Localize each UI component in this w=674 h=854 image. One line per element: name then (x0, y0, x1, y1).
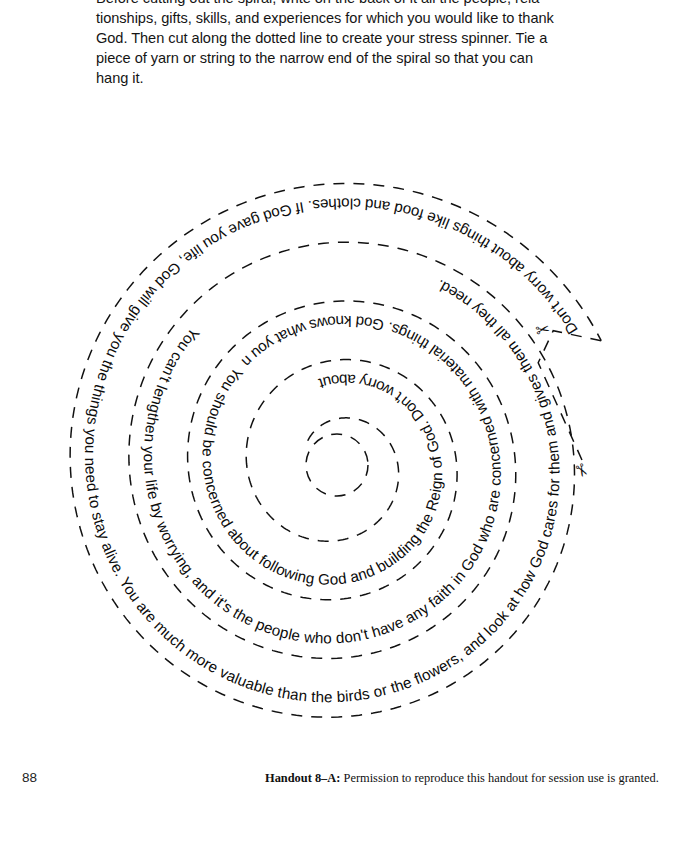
scissors-icon-top-glyph: ✂ (534, 319, 552, 340)
scissors-icon-lower-glyph: ✂ (570, 460, 593, 481)
spiral-svg: ✂ ✂ Don't worry about things like food a… (0, 90, 674, 770)
page-number: 88 (22, 770, 37, 785)
footer-credit: Handout 8–A: Permission to reproduce thi… (265, 771, 659, 786)
page-footer: 88 Handout 8–A: Permission to reproduce … (0, 770, 674, 810)
intro-line-5: hang it. (96, 69, 558, 89)
spiral-text-turn-3: You should be concerned about following … (0, 90, 445, 588)
intro-line-1: Before cutting out the spiral, write on … (96, 0, 558, 9)
spiral-text-turn-2-content: You can't lengthen your life by worrying… (0, 90, 504, 646)
footer-credit-text: Permission to reproduce this handout for… (344, 771, 659, 785)
intro-line-2: tionships, gifts, skills, and experience… (96, 9, 558, 29)
intro-paragraph: Before cutting out the spiral, write on … (96, 0, 558, 89)
footer-credit-label: Handout 8–A: (265, 771, 340, 785)
stress-spinner-figure: ✂ ✂ Don't worry about things like food a… (0, 90, 674, 770)
spiral-text-turn-2: You can't lengthen your life by worrying… (0, 90, 504, 646)
intro-line-4: piece of yarn or string to the narrow en… (96, 49, 558, 69)
spiral-text-turn-3-content: You should be concerned about following … (0, 90, 445, 588)
scissors-icon-lower: ✂ (570, 460, 593, 481)
intro-line-3: God. Then cut along the dotted line to c… (96, 29, 558, 49)
scissors-icon-top: ✂ (534, 319, 552, 340)
spiral-center-circle (306, 434, 368, 496)
